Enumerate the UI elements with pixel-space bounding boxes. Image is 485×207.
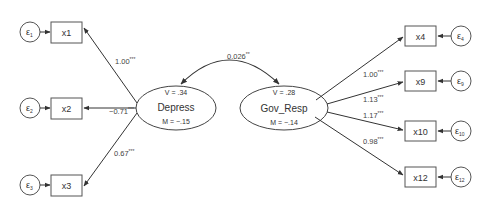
svg-text:x1: x1 [62,28,72,38]
depress-label: Depress [157,102,194,113]
error-e4: ε4 [451,26,471,46]
svg-text:x9: x9 [416,77,426,87]
svg-text:x2: x2 [62,104,72,114]
gov-resp-mean: M = −.14 [270,119,298,126]
depress-mean: M = −.15 [162,118,190,125]
svg-text:x4: x4 [416,32,426,42]
indicator-x4: x4 [405,26,436,46]
svg-text:x10: x10 [413,127,428,137]
svg-text:x12: x12 [413,173,428,183]
gov-resp-label: Gov_Resp [260,103,308,114]
loading-label-x1: 1.00*** [115,56,136,66]
loading-label-x4: 1.00*** [363,69,384,79]
loading-path-x12 [315,117,403,175]
error-e9: ε9 [451,71,471,91]
error-e10: ε10 [451,121,471,141]
loading-path-x4 [316,37,403,100]
loading-label-x9: 1.13*** [363,94,384,104]
indicator-x3: x3 [51,175,82,196]
loading-label-x3: 0.67*** [114,148,135,158]
error-e1: ε1 [20,22,40,42]
latent-gov-resp: V = .28 Gov_Resp M = −.14 [240,86,328,130]
latent-depress: V = .34 Depress M = −.15 [136,86,216,130]
covariance-label: 0.026** [227,51,250,61]
indicator-x9: x9 [405,71,436,91]
loading-label-x12: 0.98*** [363,136,384,146]
indicator-x10: x10 [405,121,436,141]
loading-label-x2: −0.71*** [109,106,134,116]
depress-variance: V = .34 [165,89,187,96]
error-e2: ε2 [20,98,40,118]
gov-resp-variance: V = .28 [273,89,295,96]
indicator-x12: x12 [405,167,436,187]
error-e3: ε3 [20,175,40,195]
loading-label-x10: 1.17*** [363,110,384,120]
covariance-arc [181,60,279,84]
indicator-x1: x1 [51,22,82,43]
svg-text:x3: x3 [62,181,72,191]
error-e12: ε12 [451,167,471,187]
sem-diagram: ε1 x1 ε2 x2 ε3 x3 1.00*** −0.71*** 0.67*… [0,0,485,207]
indicator-x2: x2 [51,98,82,119]
